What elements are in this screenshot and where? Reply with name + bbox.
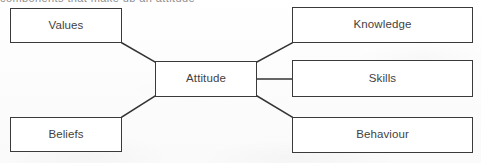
node-attitude[interactable]: Attitude	[155, 61, 257, 97]
node-behaviour[interactable]: Behaviour	[292, 117, 473, 153]
node-label-knowledge: Knowledge	[354, 19, 412, 31]
diagram-canvas: components that make up an attitude Valu…	[0, 0, 481, 163]
connector-attitude-behaviour	[257, 96, 292, 117]
node-label-beliefs: Beliefs	[48, 129, 83, 141]
connector-beliefs-attitude	[122, 96, 155, 117]
node-label-values: Values	[49, 20, 84, 32]
connector-values-attitude	[122, 43, 155, 62]
connector-attitude-knowledge	[257, 43, 292, 62]
node-skills[interactable]: Skills	[292, 60, 473, 97]
node-knowledge[interactable]: Knowledge	[292, 7, 473, 43]
node-beliefs[interactable]: Beliefs	[10, 117, 122, 152]
node-label-attitude: Attitude	[186, 73, 226, 85]
node-label-behaviour: Behaviour	[356, 129, 409, 141]
node-values[interactable]: Values	[10, 8, 122, 43]
node-label-skills: Skills	[369, 73, 396, 85]
